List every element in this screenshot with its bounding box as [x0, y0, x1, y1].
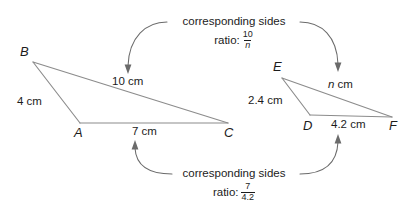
callout-top-numerator: 10	[242, 30, 254, 39]
side-label-ac: 7 cm	[132, 126, 157, 138]
side-label-ba: 4 cm	[17, 96, 42, 108]
callout-bottom-fraction: 7 4.2	[241, 182, 256, 202]
side-ba	[33, 62, 80, 123]
callout-bottom-left-arrow	[132, 140, 172, 174]
callout-bottom-numerator: 7	[244, 182, 251, 191]
vertex-label-d: D	[303, 119, 312, 132]
side-label-ef: n cm	[328, 79, 353, 91]
callout-bottom-ratio-word: ratio:	[213, 186, 239, 199]
callout-top-ratio-word: ratio:	[214, 34, 240, 47]
callout-bottom-right-arrow	[300, 134, 341, 174]
callout-top-fraction: 10 n	[242, 30, 254, 50]
side-df	[310, 115, 392, 117]
arrowhead-bottom-right	[335, 134, 342, 144]
vertex-label-f: F	[389, 119, 397, 132]
curve-bottom-right	[300, 142, 338, 174]
side-bc	[33, 62, 228, 123]
vertex-label-a: A	[74, 126, 83, 139]
side-label-bc: 10 cm	[112, 76, 143, 88]
vertex-label-b: B	[20, 45, 29, 58]
side-label-ef-unit-text: cm	[338, 78, 353, 90]
callout-bottom-text: corresponding sides	[170, 167, 298, 180]
similar-triangles-diagram: B A C 4 cm 10 cm 7 cm E D F 2.4 cm n cm …	[0, 0, 412, 203]
curve-top-left	[128, 22, 167, 66]
callout-top-text: corresponding sides	[170, 15, 298, 28]
side-label-ed: 2.4 cm	[248, 95, 283, 107]
callout-bottom: corresponding sides ratio: 7 4.2	[170, 167, 298, 202]
vertex-label-c: C	[224, 126, 233, 139]
vertex-label-e: E	[273, 60, 282, 73]
arrowhead-top-left	[125, 65, 132, 75]
callout-top-denominator: n	[244, 40, 251, 50]
arrowhead-bottom-left	[132, 140, 139, 150]
callout-bottom-ratio: ratio: 7 4.2	[170, 182, 298, 202]
callout-top-left-arrow	[125, 22, 167, 74]
curve-top-right	[300, 22, 338, 64]
callout-top-ratio: ratio: 10 n	[170, 30, 298, 50]
callout-top-right-arrow	[300, 22, 341, 72]
callout-top: corresponding sides ratio: 10 n	[170, 15, 298, 50]
curve-bottom-left	[135, 148, 172, 174]
side-label-df: 4.2 cm	[331, 119, 366, 131]
arrowhead-top-right	[335, 63, 342, 73]
triangle-abc	[33, 62, 228, 123]
callout-bottom-denominator: 4.2	[241, 192, 256, 202]
